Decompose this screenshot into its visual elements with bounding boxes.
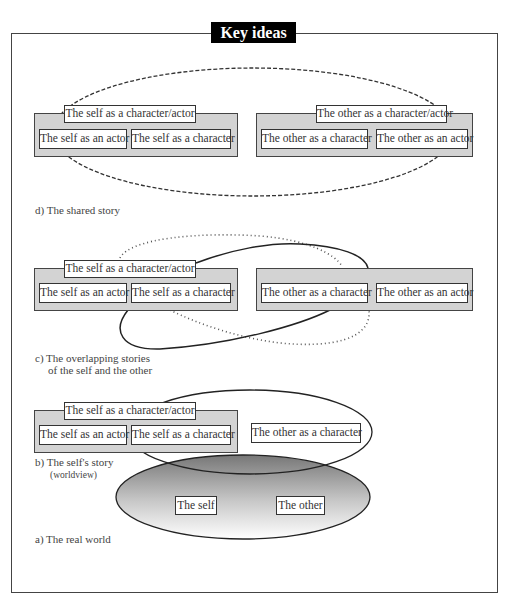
a-the-other: The other <box>276 496 325 515</box>
c-caption-line2: of the self and the other <box>48 364 152 377</box>
key-ideas-title: Key ideas <box>211 22 296 43</box>
b-self-as-character: The self as a character <box>131 425 231 445</box>
c-self-as-character: The self as a character <box>131 283 231 303</box>
b-caption-line1: b) The self's story <box>35 456 113 469</box>
d-other-as-character: The other as a character <box>261 129 368 149</box>
d-self-group-title: The self as a character/actor <box>64 105 196 123</box>
real-world-ellipse <box>116 455 370 539</box>
c-other-as-actor: The other as an actor <box>376 283 468 303</box>
d-other-group-title: The other as a character/actor <box>316 105 447 123</box>
d-self-as-character: The self as a character <box>131 129 231 149</box>
b-caption-line2: (worldview) <box>50 469 97 482</box>
c-self-group-title: The self as a character/actor <box>64 260 196 278</box>
c-self-as-actor: The self as an actor <box>39 283 127 303</box>
d-caption: d) The shared story <box>35 204 120 217</box>
b-self-as-actor: The self as an actor <box>39 425 127 445</box>
c-other-as-character: The other as a character <box>261 283 368 303</box>
b-other-as-character: The other as a character <box>251 423 361 443</box>
d-other-as-actor: The other as an actor <box>376 129 468 149</box>
d-self-as-actor: The self as an actor <box>39 129 127 149</box>
b-self-group-title: The self as a character/actor <box>64 402 196 420</box>
a-caption: a) The real world <box>35 533 111 546</box>
a-the-self: The self <box>175 496 217 515</box>
